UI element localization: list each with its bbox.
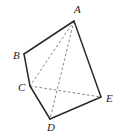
- edge-C-D: [30, 86, 50, 119]
- figure-canvas: [0, 0, 121, 137]
- edge-A-B: [24, 21, 74, 54]
- edge-E-A: [74, 21, 101, 97]
- vertex-label-d: D: [47, 122, 55, 133]
- geometry-figure: A B C D E: [0, 0, 121, 137]
- solid-edge-group: [24, 21, 101, 119]
- edge-A-D: [50, 21, 74, 119]
- vertex-label-a: A: [74, 4, 81, 15]
- vertex-label-e: E: [106, 93, 113, 104]
- vertex-label-b: B: [13, 50, 20, 61]
- edge-D-E: [50, 97, 101, 119]
- edge-C-E: [30, 86, 101, 97]
- vertex-label-c: C: [18, 82, 25, 93]
- edge-A-C: [30, 21, 74, 86]
